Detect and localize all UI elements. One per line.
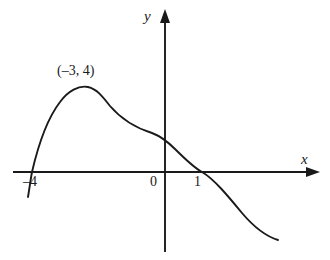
x-tick-label-1: 1: [194, 175, 201, 189]
y-axis-arrowhead: [160, 9, 170, 23]
x-axis-arrowhead: [306, 167, 320, 177]
vertex-point-label: (–3, 4): [57, 64, 94, 78]
origin-tick-label: 0: [150, 175, 157, 189]
x-axis-label: x: [301, 152, 308, 167]
y-axis-label: y: [144, 9, 151, 24]
function-curve: [28, 87, 278, 240]
x-tick-label-minus-4: –4: [23, 175, 37, 189]
graph-figure: y x 0 1 –4 (–3, 4): [0, 0, 330, 260]
coordinate-plane: [0, 0, 330, 260]
